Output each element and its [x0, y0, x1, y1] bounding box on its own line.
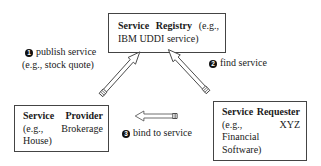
diagram-arrows: [0, 0, 321, 166]
publish-arrow: [97, 49, 143, 99]
find-arrow: [165, 46, 212, 95]
bind-arrow: [135, 111, 177, 121]
